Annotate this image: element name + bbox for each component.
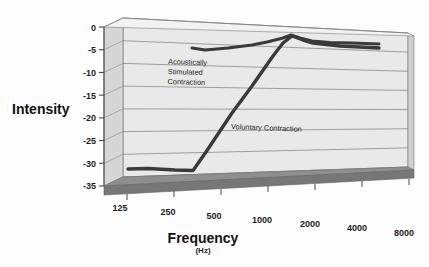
series-label-acoustic-line-2: Stimulated xyxy=(168,67,203,77)
x-tick-label-125: 125 xyxy=(112,203,127,213)
chart-figure: 0 -5 -10 -15 -20 -25 -30 -35 125 250 500… xyxy=(0,0,429,267)
y-tick-label-6: -30 xyxy=(83,159,96,169)
x-tick-label-500: 500 xyxy=(206,211,221,221)
y-tick-label-0: 0 xyxy=(91,23,96,33)
x-axis-title: Frequency xyxy=(168,230,239,246)
x-tick-label-1000: 1000 xyxy=(252,215,272,225)
x-tick-label-250: 250 xyxy=(160,207,175,217)
series-label-acoustically-stimulated-contraction: Acoustically Stimulated Contraction xyxy=(167,57,207,87)
x-tick-label-8000: 8000 xyxy=(394,228,414,238)
y-tick-label-7: -35 xyxy=(83,181,96,191)
y-tick-label-2: -10 xyxy=(83,68,96,78)
chart-right-side-panel xyxy=(408,33,414,170)
x-axis-unit: (Hz) xyxy=(195,246,210,255)
y-tick-label-4: -20 xyxy=(83,113,96,123)
series-label-acoustic-line-3: Contraction xyxy=(167,77,205,87)
y-axis-title: Intensity xyxy=(12,101,70,117)
y-tick-label-1: -5 xyxy=(88,45,96,55)
series-label-acoustic-line-1: Acoustically xyxy=(168,57,208,67)
x-tick-label-4000: 4000 xyxy=(347,223,367,233)
y-axis-ticks xyxy=(99,27,104,186)
y-tick-label-5: -25 xyxy=(83,136,96,146)
x-tick-label-2000: 2000 xyxy=(300,219,320,229)
y-tick-label-3: -15 xyxy=(83,91,96,101)
chart-left-side-panel xyxy=(104,18,123,186)
chart-canvas: 0 -5 -10 -15 -20 -25 -30 -35 125 250 500… xyxy=(0,0,429,267)
